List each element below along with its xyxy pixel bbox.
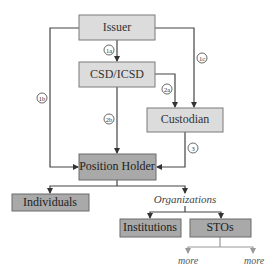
badge-1a: 1a xyxy=(104,45,114,55)
edge-1b xyxy=(50,28,79,167)
node-organizations-label: Organizations xyxy=(154,193,217,205)
node-csd-icsd-label: CSD/ICSD xyxy=(90,67,144,81)
edge-org-stos xyxy=(185,212,221,218)
badge-2a-text: 2a xyxy=(164,86,170,93)
node-institutions: Institutions xyxy=(120,219,181,237)
edge-ph-individuals xyxy=(50,186,117,193)
node-more-left: more xyxy=(178,255,199,266)
badge-3: 3 xyxy=(188,143,198,153)
badge-1c-text: 1c xyxy=(199,55,205,62)
edge-stos-more-left xyxy=(188,247,220,253)
node-issuer: Issuer xyxy=(79,15,155,40)
node-csd-icsd: CSD/ICSD xyxy=(79,62,155,87)
node-stos-label: STOs xyxy=(206,220,233,234)
badge-1b: 1b xyxy=(37,93,47,103)
node-individuals: Individuals xyxy=(12,194,89,211)
badge-1c: 1c xyxy=(197,53,207,63)
diagram-canvas: Issuer CSD/ICSD Custodian Position Holde… xyxy=(0,0,272,279)
node-stos: STOs xyxy=(190,219,251,237)
node-institutions-label: Institutions xyxy=(123,220,177,234)
edge-org-institutions xyxy=(150,212,185,218)
node-individuals-label: Individuals xyxy=(23,195,77,209)
badge-1b-text: 1b xyxy=(39,95,46,102)
node-more-right: more xyxy=(244,255,265,266)
edge-3 xyxy=(157,132,185,167)
node-custodian: Custodian xyxy=(147,108,223,132)
node-position-holder: Position Holder xyxy=(79,154,156,180)
badge-3-text: 3 xyxy=(191,145,194,152)
node-custodian-label: Custodian xyxy=(161,112,210,126)
badge-2b: 2b xyxy=(104,114,114,124)
badge-2a: 2a xyxy=(162,84,172,94)
badge-2b-text: 2b xyxy=(106,116,113,123)
edge-stos-more-right xyxy=(220,247,253,253)
badge-1a-text: 1a xyxy=(106,47,112,54)
node-issuer-label: Issuer xyxy=(103,20,132,34)
node-position-holder-label: Position Holder xyxy=(79,159,155,173)
